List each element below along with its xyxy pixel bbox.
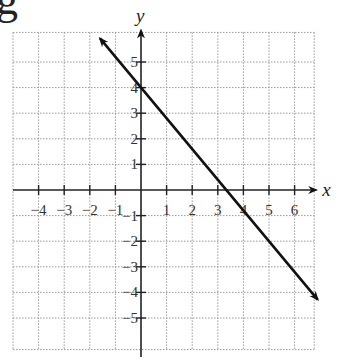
y-tick-label: 1 xyxy=(131,156,139,172)
y-tick-label: 3 xyxy=(131,105,139,121)
coordinate-plane: g −4−3−2−1123456−5−4−3−2−112345 x y xyxy=(0,0,349,357)
y-tick-label: 5 xyxy=(131,54,139,70)
x-tick-label: 1 xyxy=(163,202,171,218)
heading-fragment: g xyxy=(0,0,18,24)
x-tick-label: −3 xyxy=(56,202,72,218)
x-tick-label: 3 xyxy=(214,202,222,218)
y-axis-label: y xyxy=(134,5,145,26)
x-tick-label: 5 xyxy=(265,202,273,218)
x-tick-label: −1 xyxy=(107,202,123,218)
x-tick-label: 6 xyxy=(291,202,299,218)
y-tick-label: −3 xyxy=(122,259,138,275)
y-tick-label: −1 xyxy=(122,208,138,224)
x-axis-label: x xyxy=(321,179,331,200)
y-tick-label: −2 xyxy=(122,233,138,249)
x-tick-label: −2 xyxy=(82,202,98,218)
y-tick-label: −5 xyxy=(122,310,138,326)
x-tick-label: −4 xyxy=(31,202,47,218)
axes xyxy=(13,30,316,357)
y-tick-label: −4 xyxy=(122,284,138,300)
x-tick-label: 2 xyxy=(188,202,196,218)
y-tick-label: 2 xyxy=(131,131,139,147)
